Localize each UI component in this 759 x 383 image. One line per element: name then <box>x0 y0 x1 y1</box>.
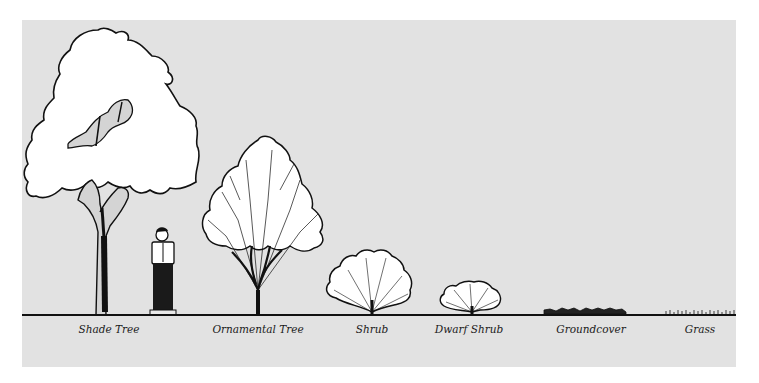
label-shade-tree: Shade Tree <box>79 323 140 335</box>
label-shrub: Shrub <box>356 323 388 335</box>
dwarf-shrub-drawing <box>440 281 500 315</box>
person-scale-figure <box>150 227 176 315</box>
label-grass: Grass <box>685 323 715 335</box>
label-ornamental-tree: Ornamental Tree <box>212 323 303 335</box>
label-groundcover: Groundcover <box>556 323 625 335</box>
label-dwarf-shrub: Dwarf Shrub <box>435 323 503 335</box>
shrub-drawing <box>327 250 412 315</box>
groundcover-drawing <box>544 308 626 314</box>
ornamental-tree-drawing <box>203 136 323 315</box>
